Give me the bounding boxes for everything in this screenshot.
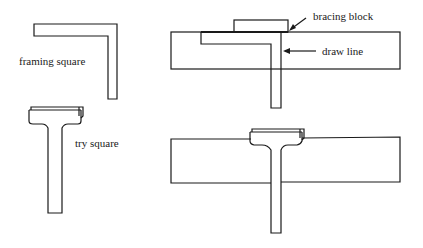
- bracing-block: [234, 20, 288, 32]
- bracing-block-label: bracing block: [313, 10, 374, 22]
- board-bottom: [171, 137, 400, 183]
- try-square-drawing: [29, 107, 83, 213]
- framing-square-label: framing square: [19, 55, 85, 67]
- draw-line-arrow: [283, 48, 316, 54]
- draw-line-label: draw line: [322, 45, 363, 57]
- try-square-label: try square: [75, 137, 119, 149]
- diagram-canvas: framing square try square bracing block …: [0, 0, 423, 248]
- bracing-block-arrow: [289, 18, 306, 31]
- framing-square-in-use: [201, 32, 288, 108]
- try-square-in-use: [250, 129, 304, 233]
